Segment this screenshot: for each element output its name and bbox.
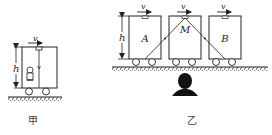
height-dimension-jia: h [13, 47, 22, 88]
velocity-label-m: v [181, 2, 186, 11]
mirror [36, 47, 42, 50]
height-label-yi: h [119, 32, 125, 43]
velocity-label-a: v [141, 2, 146, 11]
ground-jia [8, 97, 62, 101]
caption-yi: 乙 [187, 115, 197, 126]
height-label: h [13, 63, 19, 74]
cart-b: B v [209, 2, 241, 66]
mirror-label-m: M [179, 24, 191, 35]
figure-jia: h v 甲 [8, 34, 62, 126]
velocity-arrow-jia: v [28, 34, 42, 43]
velocity-label: v [33, 34, 38, 43]
cart-m: M v [169, 2, 201, 66]
wheel [43, 88, 50, 95]
ground-observer-icon [172, 73, 198, 96]
velocity-label-b: v [221, 2, 226, 11]
height-dimension-yi: h [118, 16, 129, 59]
figure-yi: A v M v B v [112, 2, 268, 126]
physics-diagram: h v 甲 A v M [0, 0, 272, 135]
cart-jia [22, 47, 57, 95]
box-label-b: B [220, 33, 228, 44]
box-label-a: A [140, 33, 148, 44]
cart-a: A v [129, 2, 161, 66]
ground-yi [112, 67, 268, 71]
wheel [26, 88, 33, 95]
caption-jia: 甲 [28, 115, 38, 126]
observer-inside-icon [27, 67, 33, 80]
